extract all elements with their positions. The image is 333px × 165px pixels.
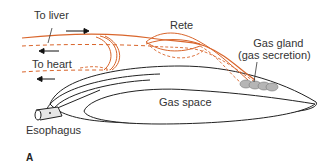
label-rete: Rete	[170, 19, 193, 31]
label-gas-gland-title: Gas gland	[246, 37, 311, 49]
swim-bladder-outline	[46, 66, 317, 124]
panel-letter: A	[26, 152, 33, 163]
label-to-liver: To liver	[34, 9, 69, 21]
label-to-heart: To heart	[32, 58, 72, 70]
label-esophagus: Esophagus	[26, 124, 81, 136]
esophagus-shape	[35, 107, 62, 120]
label-gas-gland-subtitle: (gas secretion)	[238, 49, 311, 61]
label-gas-gland: Gas gland (gas secretion)	[246, 37, 311, 61]
swim-bladder-diagram	[0, 0, 333, 165]
label-gas-space: Gas space	[159, 96, 212, 108]
